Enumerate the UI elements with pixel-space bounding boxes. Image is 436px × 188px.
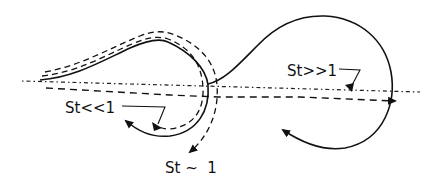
- label-st-order-one: St ~ 1: [165, 159, 217, 177]
- label-st-large: St>>1: [287, 62, 337, 80]
- trajectory-diagram: St<<1 St>>1 St ~ 1: [0, 0, 436, 188]
- solid-loop-right: [208, 16, 392, 149]
- arrowhead-st-small: [152, 122, 162, 131]
- label-st-small: St<<1: [65, 99, 115, 117]
- solid-loop-left: [40, 40, 208, 136]
- centerline-dotted: [22, 81, 420, 92]
- dashed-trajectory-st-order-one: [45, 32, 217, 152]
- leader-st-small: [122, 106, 165, 124]
